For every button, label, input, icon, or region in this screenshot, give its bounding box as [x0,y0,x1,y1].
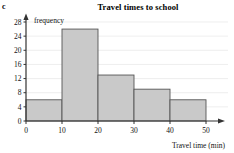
x-tick-label: 30 [130,126,138,135]
x-axis-ticks: 01020304050 [24,121,210,135]
y-tick-label: 0 [18,117,22,126]
y-tick-label: 16 [14,60,22,69]
histogram-bar [134,89,170,121]
y-tick-label: 12 [14,74,22,83]
y-tick-label: 8 [18,88,22,97]
x-tick-label: 20 [94,126,102,135]
y-axis-arrow-icon [23,14,28,21]
y-axis-ticks: 0481216202428 [14,18,26,126]
x-axis-label: Travel time (min) [172,141,226,150]
x-axis-arrow-icon [218,118,225,123]
y-axis-label: frequency [34,16,64,25]
histogram-plot: 0481216202428 01020304050 frequencyTrave… [0,0,234,153]
histogram-bar [170,100,206,121]
histogram-figure: c Travel times to school 0481216202428 0… [0,0,234,153]
x-tick-label: 50 [202,126,210,135]
x-tick-label: 0 [24,126,28,135]
bars-group [26,29,206,121]
y-tick-label: 20 [14,46,22,55]
histogram-bar [62,29,98,121]
x-tick-label: 10 [58,126,66,135]
y-tick-label: 4 [18,103,22,112]
y-tick-label: 24 [14,32,22,41]
histogram-bar [26,100,62,121]
y-tick-label: 28 [14,18,22,27]
histogram-bar [98,75,134,121]
x-tick-label: 40 [166,126,174,135]
